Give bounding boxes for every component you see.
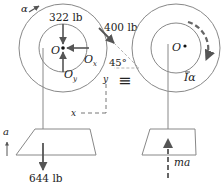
weight-pulley-label: 322 lb <box>49 11 83 23</box>
left-block <box>16 129 96 155</box>
block-accel-label: a <box>3 126 9 137</box>
y-axis-label: y <box>102 74 109 84</box>
right-center-dot <box>183 44 186 47</box>
effective-force-label: ma <box>174 156 190 168</box>
alpha-label: α <box>21 3 28 14</box>
dynamics-diagram: 322 lb O Ox Oy α 400 lb 45° y x 644 lb a… <box>0 0 222 188</box>
applied-force-label: 400 lb <box>104 21 138 33</box>
right-center-o-label: O <box>172 41 181 54</box>
left-center-dot <box>61 46 65 50</box>
moment-label: Iα <box>183 71 196 84</box>
block-weight-label: 644 lb <box>29 172 63 184</box>
angle-label: 45° <box>109 57 127 68</box>
reaction-y-label: Oy <box>64 68 78 83</box>
x-axis-label: x <box>71 108 76 118</box>
reaction-x-label: Ox <box>84 53 97 68</box>
kinetic-diagram: O Iα ma <box>132 4 220 178</box>
free-body-diagram: 322 lb O Ox Oy α 400 lb 45° y x 644 lb a <box>3 3 139 184</box>
equivalence-symbol: ≡ <box>118 71 131 90</box>
center-o-label: O <box>51 44 60 57</box>
left-cable-wrap <box>43 32 50 48</box>
alpha-arrow <box>29 6 39 12</box>
